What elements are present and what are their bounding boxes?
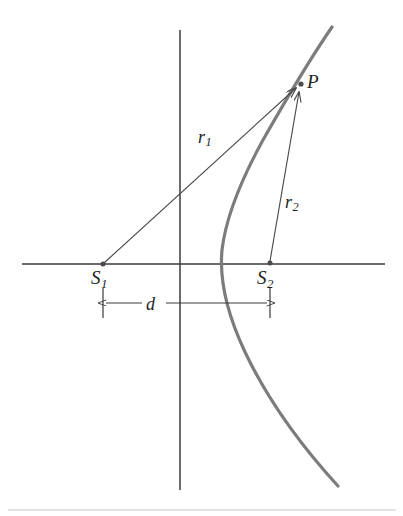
source-s1-label: S1 — [91, 268, 107, 291]
interference-geometry-diagram — [0, 0, 403, 516]
point-p-label: P — [307, 72, 319, 91]
point-p-dot — [298, 81, 303, 86]
hyperbola-branch-curve — [221, 27, 338, 486]
ray-r1-subscript: 1 — [205, 135, 211, 149]
source-s2-subscript: 2 — [267, 276, 273, 291]
source-s1-dot — [101, 262, 106, 267]
source-s2-dot — [268, 261, 273, 266]
separation-d-label: d — [146, 295, 155, 313]
figure-container: P r1 r2 S1 S2 d — [0, 0, 403, 516]
source-s1-subscript: 1 — [101, 276, 107, 291]
ray-r1-line — [104, 88, 296, 263]
ray-r1-label: r1 — [198, 128, 212, 149]
ray-r2-subscript: 2 — [292, 200, 298, 214]
source-s2-label: S2 — [257, 268, 273, 291]
ray-r2-label: r2 — [285, 193, 299, 214]
